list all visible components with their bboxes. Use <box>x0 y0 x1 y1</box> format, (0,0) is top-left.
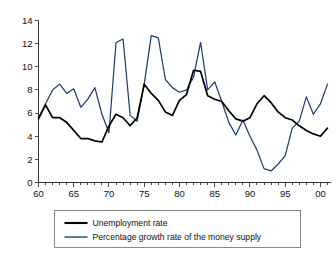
x-axis-tick-labels: 606570758085909500 <box>33 188 326 199</box>
y-axis-tick-labels: 02468101214 <box>22 15 33 188</box>
x-tick-label: 85 <box>209 188 220 199</box>
series-line-money-supply <box>39 36 328 171</box>
x-tick-label: 00 <box>315 188 326 199</box>
x-tick-label: 95 <box>280 188 291 199</box>
y-tick-label: 14 <box>22 15 33 26</box>
x-tick-label: 70 <box>104 188 115 199</box>
x-tick-label: 65 <box>68 188 79 199</box>
x-tick-label: 90 <box>245 188 256 199</box>
y-tick-label: 6 <box>27 107 32 118</box>
y-tick-label: 8 <box>27 84 32 95</box>
x-tick-label: 80 <box>174 188 185 199</box>
x-tick-label: 60 <box>33 188 44 199</box>
y-tick-label: 0 <box>27 177 32 188</box>
y-tick-label: 4 <box>27 131 32 142</box>
y-tick-label: 2 <box>27 154 32 165</box>
y-tick-label: 10 <box>22 61 33 72</box>
legend-label-unemployment: Unemployment rate <box>93 218 168 228</box>
x-tick-label: 75 <box>139 188 150 199</box>
line-chart: 02468101214 606570758085909500 Unemploym… <box>0 0 336 259</box>
x-axis-tick-marks <box>39 183 328 187</box>
legend-label-money-supply: Percentage growth rate of the money supp… <box>93 232 262 242</box>
chart-figure: 02468101214 606570758085909500 Unemploym… <box>0 0 336 259</box>
y-tick-label: 12 <box>22 38 33 49</box>
chart-legend: Unemployment rate Percentage growth rate… <box>55 211 301 248</box>
